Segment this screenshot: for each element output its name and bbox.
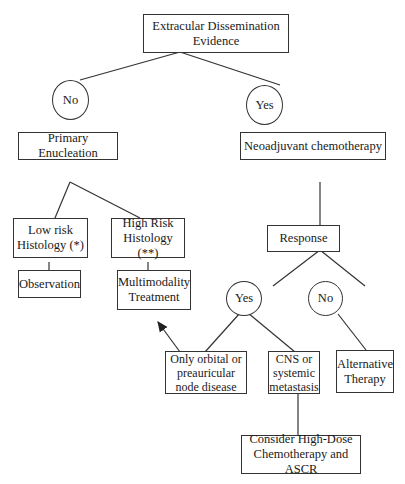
no-decision-circle: No (52, 80, 89, 120)
yes-decision-circle: Yes (246, 85, 283, 125)
cns-metastasis-node: CNS or systemic metastasis (268, 351, 320, 394)
observation-node: Observation (18, 270, 81, 298)
multimodality-treatment-node: Multimodality Treatment (117, 270, 191, 310)
high-dose-chemotherapy-node: Consider High-Dose Chemotherapy and ASCR (241, 435, 361, 474)
yes-response-circle: Yes (226, 281, 262, 316)
low-risk-histology-node: Low risk Histology (*) (13, 218, 88, 258)
primary-enucleation-node: Primary Enucleation (18, 132, 118, 160)
no-response-circle: No (308, 281, 343, 316)
root-node: Extracular Dissemination Evidence (143, 14, 289, 53)
neoadjuvant-chemotherapy-node: Neoadjuvant chemotherapy (240, 132, 386, 160)
alternative-therapy-node: Alternative Therapy (336, 350, 394, 393)
orbital-disease-node: Only orbital or preauricular node diseas… (165, 351, 247, 394)
high-risk-histology-node: High Risk Histology (**) (111, 218, 185, 258)
response-node: Response (267, 225, 340, 252)
